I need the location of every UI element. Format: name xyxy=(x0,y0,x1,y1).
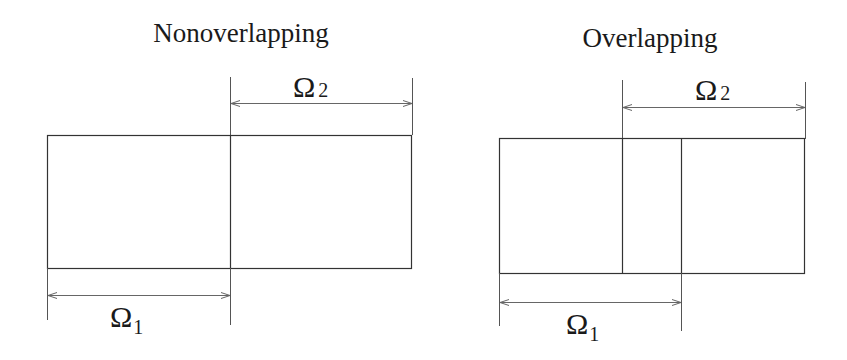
omega2-dimension: Ω2 xyxy=(231,70,413,135)
omega2-label: Ω2 xyxy=(695,73,730,106)
omega1-label: Ω1 xyxy=(566,307,599,345)
nonoverlapping-domain-rect xyxy=(48,136,412,269)
omega2-label: Ω2 xyxy=(293,70,328,103)
domain-decomposition-figure: Nonoverlapping Ω2 Ω1 Ove xyxy=(0,0,847,360)
nonoverlapping-title: Nonoverlapping xyxy=(153,18,328,48)
omega1-dimension: Ω1 xyxy=(500,273,682,345)
omega1-label: Ω1 xyxy=(110,300,143,338)
omega1-dimension: Ω1 xyxy=(48,268,231,338)
overlapping-domain-rect xyxy=(500,139,805,274)
overlapping-title: Overlapping xyxy=(583,23,718,53)
omega2-dimension: Ω2 xyxy=(623,73,806,139)
nonoverlapping-diagram: Nonoverlapping Ω2 Ω1 xyxy=(48,18,413,338)
overlapping-diagram: Overlapping Ω2 Ω1 xyxy=(500,23,806,345)
